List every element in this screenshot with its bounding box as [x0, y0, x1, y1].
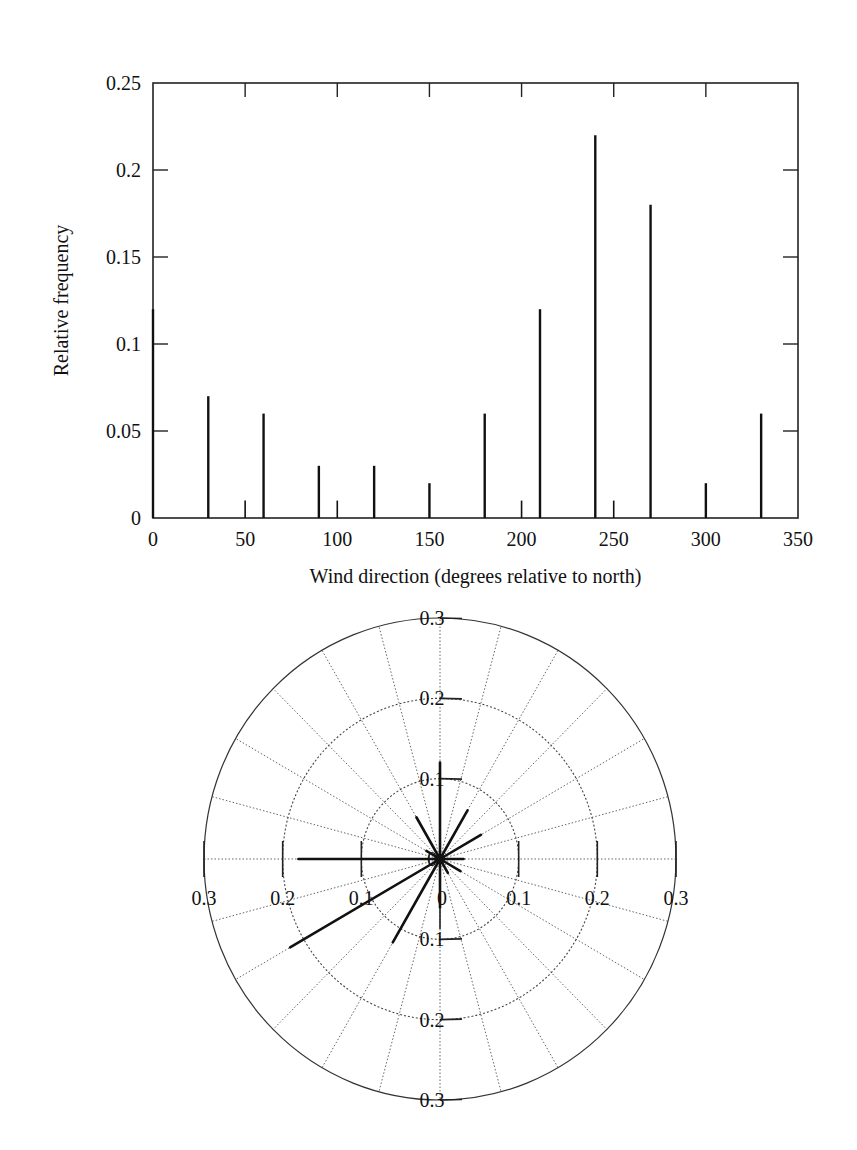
tick-labels: 05010015020025030035000.050.10.150.20.25 [106, 72, 813, 550]
polar-ring-label: 0.1 [506, 887, 531, 909]
y-tick-label: 0.25 [106, 72, 141, 94]
y-axis-label: Relative frequency [50, 225, 73, 377]
polar-ring-label: 0.3 [192, 887, 217, 909]
wind-direction-figure: 05010015020025030035000.050.10.150.20.25… [0, 0, 857, 1150]
polar-spoke [379, 626, 440, 859]
polar-spoke [440, 689, 607, 859]
x-tick-label: 0 [148, 528, 158, 550]
y-tick-label: 0 [131, 507, 141, 529]
x-tick-label: 350 [783, 528, 813, 550]
plot-frame [153, 83, 798, 518]
polar-ring-label: 0.1 [420, 928, 445, 950]
y-tick-label: 0.15 [106, 246, 141, 268]
stem-series [153, 135, 761, 518]
x-tick-label: 100 [322, 528, 352, 550]
polar-ring-label: 0.1 [349, 887, 374, 909]
x-tick-label: 150 [414, 528, 444, 550]
polar-spoke [440, 859, 501, 1092]
x-tick-label: 50 [235, 528, 255, 550]
polar-ring-label: 0.2 [270, 887, 295, 909]
polar-spoke [440, 859, 558, 1068]
polar-spoke [236, 739, 440, 860]
y-tick-label: 0.2 [116, 159, 141, 181]
x-tick-label: 200 [507, 528, 537, 550]
x-tick-label: 250 [599, 528, 629, 550]
polar-ring-label: 0.3 [664, 887, 689, 909]
polar-ring-label: 0.3 [420, 607, 445, 629]
polar-ring-label: 0.3 [420, 1089, 445, 1111]
polar-spoke [440, 859, 607, 1029]
polar-chart: 0.10.10.10.10.20.20.20.20.30.30.30.300 [192, 607, 689, 1111]
x-tick-label: 300 [691, 528, 721, 550]
polar-spoke [212, 797, 440, 859]
polar-spoke [440, 626, 501, 859]
polar-ring-label: 0.2 [420, 1009, 445, 1031]
polar-ring-label: 0.2 [420, 687, 445, 709]
polar-spoke [440, 859, 644, 980]
x-axis-label: Wind direction (degrees relative to nort… [310, 565, 642, 588]
y-tick-label: 0.05 [106, 420, 141, 442]
axis-ticks [153, 83, 798, 431]
polar-ring-label: 0.2 [585, 887, 610, 909]
polar-stems [290, 763, 481, 948]
histogram-chart: 05010015020025030035000.050.10.150.20.25… [50, 72, 813, 588]
polar-spoke [379, 859, 440, 1092]
polar-spoke [273, 859, 440, 1029]
polar-spoke [440, 859, 668, 921]
y-tick-label: 0.1 [116, 333, 141, 355]
polar-spoke [440, 797, 668, 859]
polar-ring-label: 0 [427, 848, 437, 870]
polar-spoke [273, 689, 440, 859]
polar-ring-label: 0.1 [420, 768, 445, 790]
polar-spoke [212, 859, 440, 921]
polar-ring-label: 0 [437, 887, 447, 909]
